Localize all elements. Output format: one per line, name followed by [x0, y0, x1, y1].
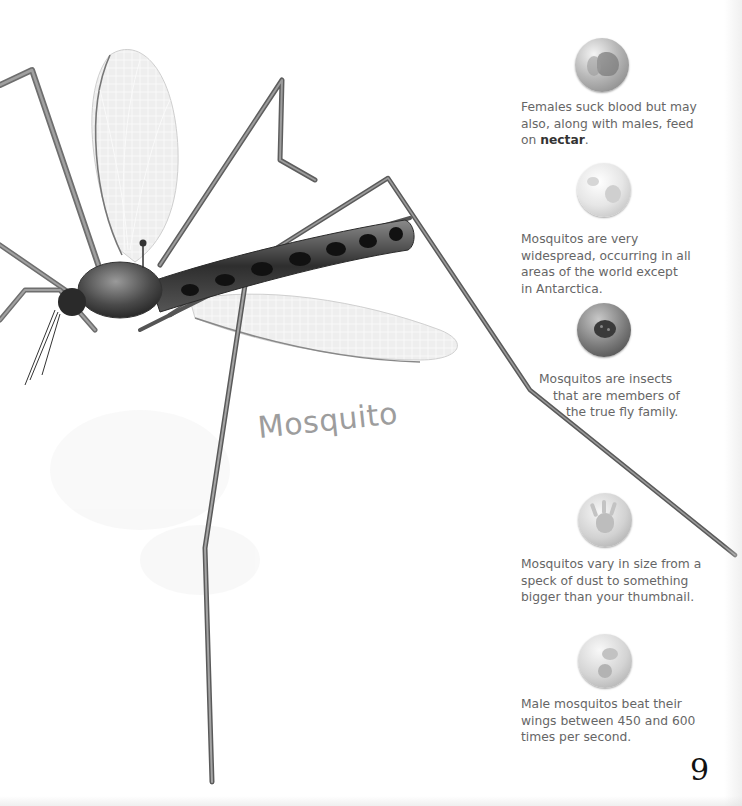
fact-classification-line-3: the true fly family.	[539, 404, 680, 421]
fact-feeding-line-2: also, along with males, feed	[521, 116, 697, 133]
thorax	[78, 262, 162, 318]
fact-size-line-2: speck of dust to something	[521, 573, 701, 590]
globe-icon	[577, 163, 631, 217]
fact-distribution-line-1: Mosquitos are very	[521, 231, 691, 248]
fact-feeding-prefix: on	[521, 133, 540, 147]
fact-wingbeat-line-3: times per second.	[521, 729, 695, 746]
ladybug-icon	[577, 303, 631, 357]
upper-wing	[92, 49, 178, 262]
fact-feeding-line-3: on nectar.	[521, 132, 697, 149]
fact-classification-line-2: that are members of	[539, 388, 680, 405]
lower-wing	[190, 294, 457, 360]
fact-size-line-1: Mosquitos vary in size from a	[521, 556, 701, 573]
fact-classification-line-1: Mosquitos are insects	[539, 371, 680, 388]
page-number: 9	[690, 752, 709, 787]
fact-distribution-line-2: widespread, occurring in all	[521, 248, 691, 265]
book-page: Mosquito Females suck blood but may also…	[0, 0, 742, 806]
fact-wingbeat-line-2: wings between 450 and 600	[521, 713, 695, 730]
fact-size-line-3: bigger than your thumbnail.	[521, 589, 701, 606]
wing-beat-icon	[578, 634, 632, 688]
background-texture	[50, 410, 260, 595]
fact-distribution-line-3: areas of the world except	[521, 264, 691, 281]
proboscis	[25, 310, 60, 385]
page-bottom-shadow	[0, 796, 742, 806]
fact-wingbeat-line-1: Male mosquitos beat their	[521, 696, 695, 713]
mouth-icon	[575, 38, 629, 92]
nectar-term: nectar	[540, 133, 585, 147]
fact-feeding-suffix: .	[585, 133, 589, 147]
hand-icon	[578, 493, 632, 547]
fact-feeding-line-1: Females suck blood but may	[521, 99, 697, 116]
fact-distribution-line-4: in Antarctica.	[521, 281, 691, 298]
page-edge-shadow	[724, 0, 742, 806]
head	[58, 288, 86, 316]
